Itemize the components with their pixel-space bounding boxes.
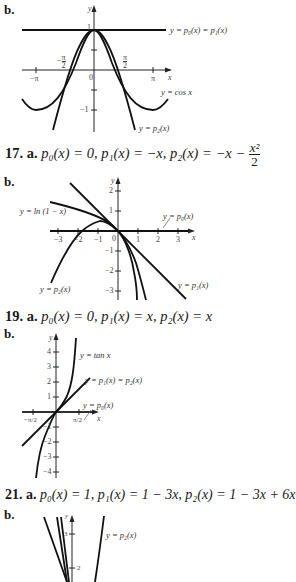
tick-y: 3 [64,530,68,538]
annotation-p2: y = p₂(x) [106,530,136,540]
y-axis-label-21: y [65,512,68,520]
graph-p2-approximations [0,0,296,582]
tick-y: 2 [77,564,81,572]
